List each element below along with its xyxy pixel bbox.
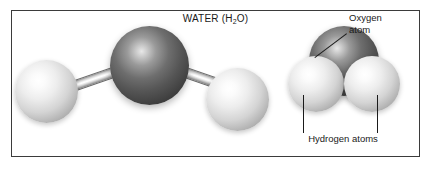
oxygen-atom-label-line1: Oxygen [349, 12, 413, 24]
water-molecule-figure: WATER (H2O) Oxygen atom Hydrogen atoms [0, 0, 431, 173]
oxygen-atom-label-line2: atom [349, 24, 413, 36]
hydrogen-atoms-label: Hydrogen atoms [288, 133, 398, 145]
figure-title-tail: O) [237, 13, 249, 24]
oxygen-atom-label: Oxygen atom [349, 12, 413, 36]
figure-title-main: WATER (H [183, 13, 233, 24]
